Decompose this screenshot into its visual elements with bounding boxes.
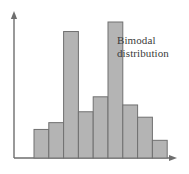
histogram-bar [123, 105, 138, 158]
histogram-bar [49, 123, 64, 158]
histogram-bar [64, 32, 79, 158]
histogram-plot [0, 0, 189, 174]
y-axis [11, 11, 17, 158]
histogram-bar [34, 129, 49, 158]
y-axis-arrow-icon [11, 11, 17, 19]
x-axis-arrow-icon [169, 155, 177, 161]
histogram-bar [138, 117, 153, 158]
histogram-bar [152, 140, 167, 158]
histogram-bar [93, 97, 108, 158]
annotation-bimodal-distribution: Bimodal distribution [117, 34, 185, 60]
histogram-bar [78, 112, 93, 158]
bimodal-histogram-figure: Bimodal distribution [0, 0, 189, 174]
